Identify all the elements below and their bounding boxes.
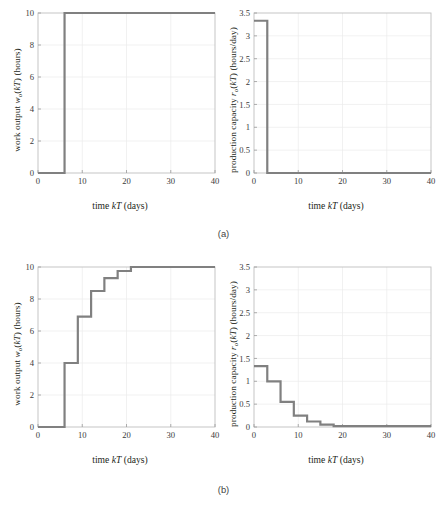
panel-a-work-output: work output wo(kT) (hours) 0102030400246… bbox=[0, 4, 223, 226]
y-axis-label-production-capacity: production capacity ro(kT) (hours/day) bbox=[228, 0, 242, 200]
svg-text:2: 2 bbox=[246, 331, 250, 341]
svg-text:0: 0 bbox=[36, 176, 40, 186]
svg-text:30: 30 bbox=[166, 176, 175, 186]
grid-lines bbox=[254, 13, 431, 173]
subfigure-label-b: (b) bbox=[0, 484, 447, 495]
tick-labels: 0102030400246810 bbox=[25, 8, 219, 186]
svg-text:8: 8 bbox=[30, 294, 34, 304]
svg-text:2: 2 bbox=[30, 390, 34, 400]
tick-labels: 0102030400246810 bbox=[25, 262, 219, 440]
svg-text:6: 6 bbox=[30, 72, 35, 82]
panel-b-work-output: work output wo(kT) (hours) 0102030400246… bbox=[0, 258, 223, 480]
subfigure-a-row: work output wo(kT) (hours) 0102030400246… bbox=[0, 4, 447, 226]
svg-text:10: 10 bbox=[294, 430, 303, 440]
svg-text:2: 2 bbox=[30, 136, 34, 146]
svg-text:4: 4 bbox=[30, 358, 35, 368]
svg-text:3: 3 bbox=[246, 285, 250, 295]
x-axis-label: time kT (days) bbox=[246, 200, 426, 211]
subfigure-label-a: (a) bbox=[0, 228, 447, 239]
plot-a-work-output: 0102030400246810 bbox=[0, 4, 223, 199]
panel-a-production-capacity: production capacity ro(kT) (hours/day) 0… bbox=[216, 4, 439, 226]
y-axis-label-work-output: work output wo(kT) (hours) bbox=[12, 0, 26, 200]
svg-text:0: 0 bbox=[36, 430, 40, 440]
svg-text:6: 6 bbox=[30, 326, 35, 336]
svg-text:0: 0 bbox=[252, 430, 256, 440]
svg-text:4: 4 bbox=[30, 104, 35, 114]
svg-text:1: 1 bbox=[246, 122, 250, 132]
figure-container: work output wo(kT) (hours) 0102030400246… bbox=[0, 0, 447, 507]
svg-text:30: 30 bbox=[382, 430, 391, 440]
svg-text:0: 0 bbox=[30, 422, 34, 432]
svg-text:30: 30 bbox=[382, 176, 391, 186]
x-axis-label: time kT (days) bbox=[246, 454, 426, 465]
svg-text:0: 0 bbox=[246, 168, 250, 178]
svg-text:10: 10 bbox=[25, 8, 34, 18]
tick-labels: 01020304000.511.522.533.5 bbox=[239, 8, 435, 186]
svg-text:2: 2 bbox=[246, 77, 250, 87]
svg-text:0: 0 bbox=[30, 168, 34, 178]
svg-text:20: 20 bbox=[122, 176, 131, 186]
svg-text:10: 10 bbox=[78, 430, 87, 440]
panel-b-production-capacity: production capacity ro(kT) (hours/day) 0… bbox=[216, 258, 439, 480]
plot-a-production-capacity: 01020304000.511.522.533.5 bbox=[216, 4, 439, 199]
svg-text:1: 1 bbox=[246, 376, 250, 386]
x-axis-label: time kT (days) bbox=[30, 200, 210, 211]
plot-b-work-output: 0102030400246810 bbox=[0, 258, 223, 453]
grid-lines bbox=[254, 267, 431, 427]
svg-text:8: 8 bbox=[30, 40, 34, 50]
svg-text:30: 30 bbox=[166, 430, 175, 440]
tick-labels: 01020304000.511.522.533.5 bbox=[239, 262, 435, 440]
x-axis-label: time kT (days) bbox=[30, 454, 210, 465]
svg-text:3: 3 bbox=[246, 31, 250, 41]
svg-text:10: 10 bbox=[25, 262, 34, 272]
svg-text:20: 20 bbox=[122, 430, 131, 440]
svg-text:40: 40 bbox=[427, 430, 436, 440]
y-axis-label-work-output: work output wo(kT) (hours) bbox=[12, 254, 26, 454]
svg-text:20: 20 bbox=[338, 176, 347, 186]
svg-text:20: 20 bbox=[338, 430, 347, 440]
plot-b-production-capacity: 01020304000.511.522.533.5 bbox=[216, 258, 439, 453]
svg-text:10: 10 bbox=[294, 176, 303, 186]
subfigure-b-row: work output wo(kT) (hours) 0102030400246… bbox=[0, 258, 447, 480]
svg-text:0: 0 bbox=[252, 176, 256, 186]
y-axis-label-production-capacity: production capacity ro(kT) (hours/day) bbox=[228, 254, 242, 454]
svg-text:0: 0 bbox=[246, 422, 250, 432]
svg-text:40: 40 bbox=[427, 176, 436, 186]
svg-text:10: 10 bbox=[78, 176, 87, 186]
